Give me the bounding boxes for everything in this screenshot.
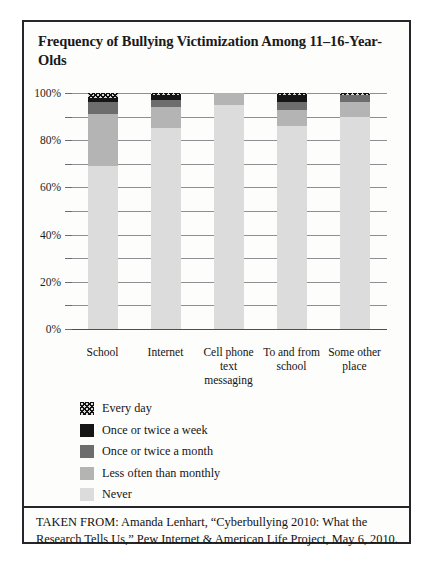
bar-segment-month: [151, 100, 181, 107]
legend-item-label: Once or twice a month: [102, 444, 213, 459]
bar-segment-less: [151, 107, 181, 128]
y-tick-100: [65, 93, 72, 94]
legend-item-everyday[interactable]: Every day: [80, 398, 370, 420]
y-tick-30: [65, 258, 72, 259]
plot-area: 0%20%40%60%80%100%SchoolInternetCell pho…: [72, 93, 387, 329]
bar-segment-never: [88, 166, 118, 329]
bar-segment-less: [88, 114, 118, 166]
y-tick-20: [65, 282, 72, 283]
y-axis-label-20: 20%: [40, 276, 61, 288]
legend-item-less[interactable]: Less often than monthly: [80, 463, 370, 485]
x-axis-label-line2: place: [323, 359, 386, 373]
y-tick-80: [65, 140, 72, 141]
x-axis-label-line2: school: [260, 359, 323, 373]
source-caption: TAKEN FROM: Amanda Lenhart, “Cyberbullyi…: [36, 514, 402, 548]
bar-segment-month: [88, 102, 118, 114]
bar-internet[interactable]: [151, 93, 181, 329]
chart-title: Frequency of Bullying Victimization Amon…: [38, 32, 390, 71]
bar-segment-less: [214, 93, 244, 105]
x-axis-label-line2: text messaging: [197, 359, 260, 387]
legend-item-week[interactable]: Once or twice a week: [80, 420, 370, 442]
bar-segment-month: [277, 102, 307, 109]
x-axis-label-line1: School: [71, 345, 134, 359]
bar-to-and-from-school[interactable]: [277, 93, 307, 329]
y-axis-label-80: 80%: [40, 134, 61, 146]
y-tick-90: [65, 117, 72, 118]
legend-swatch-icon: [80, 424, 94, 437]
x-axis-label-line1: Internet: [134, 345, 197, 359]
legend-swatch-icon: [80, 402, 94, 415]
x-axis-label-3: To and fromschool: [260, 345, 323, 373]
bar-segment-never: [151, 128, 181, 329]
bar-some-other-place[interactable]: [340, 93, 370, 329]
legend-item-label: Less often than monthly: [102, 466, 220, 481]
bar-segment-week: [277, 95, 307, 102]
x-axis-label-line1: Cell phone: [197, 345, 260, 359]
x-axis-label-0: School: [71, 345, 134, 359]
plot-wrapper: 0%20%40%60%80%100%SchoolInternetCell pho…: [24, 82, 409, 367]
figure-frame: Frequency of Bullying Victimization Amon…: [22, 20, 411, 544]
y-axis-label-100: 100%: [34, 87, 61, 99]
legend-item-label: Once or twice a week: [102, 423, 208, 438]
chart-legend: Every dayOnce or twice a weekOnce or twi…: [80, 398, 370, 506]
bar-segment-never: [340, 117, 370, 329]
y-tick-0: [65, 329, 72, 330]
y-tick-10: [65, 305, 72, 306]
x-axis-label-2: Cell phonetext messaging: [197, 345, 260, 387]
legend-item-label: Every day: [102, 401, 152, 416]
gridline-0: [72, 329, 387, 330]
bar-segment-less: [340, 102, 370, 116]
y-axis-label-0: 0%: [46, 323, 61, 335]
x-axis-label-line1: To and from: [260, 345, 323, 359]
bar-school[interactable]: [88, 93, 118, 329]
bar-cell-phone-text-messaging[interactable]: [214, 93, 244, 329]
legend-swatch-icon: [80, 488, 94, 501]
legend-item-month[interactable]: Once or twice a month: [80, 441, 370, 463]
legend-swatch-icon: [80, 467, 94, 480]
legend-item-label: Never: [102, 487, 132, 502]
legend-item-never[interactable]: Never: [80, 484, 370, 506]
y-axis-label-40: 40%: [40, 229, 61, 241]
bar-segment-never: [214, 105, 244, 329]
bar-segment-month: [340, 95, 370, 102]
y-tick-40: [65, 235, 72, 236]
bar-segment-never: [277, 126, 307, 329]
legend-swatch-icon: [80, 445, 94, 458]
y-tick-60: [65, 187, 72, 188]
y-tick-50: [65, 211, 72, 212]
x-axis-label-1: Internet: [134, 345, 197, 359]
x-axis-label-line1: Some other: [323, 345, 386, 359]
x-axis-label-4: Some otherplace: [323, 345, 386, 373]
y-axis-label-60: 60%: [40, 181, 61, 193]
y-tick-70: [65, 164, 72, 165]
caption-divider: [24, 506, 409, 508]
bar-segment-less: [277, 110, 307, 127]
